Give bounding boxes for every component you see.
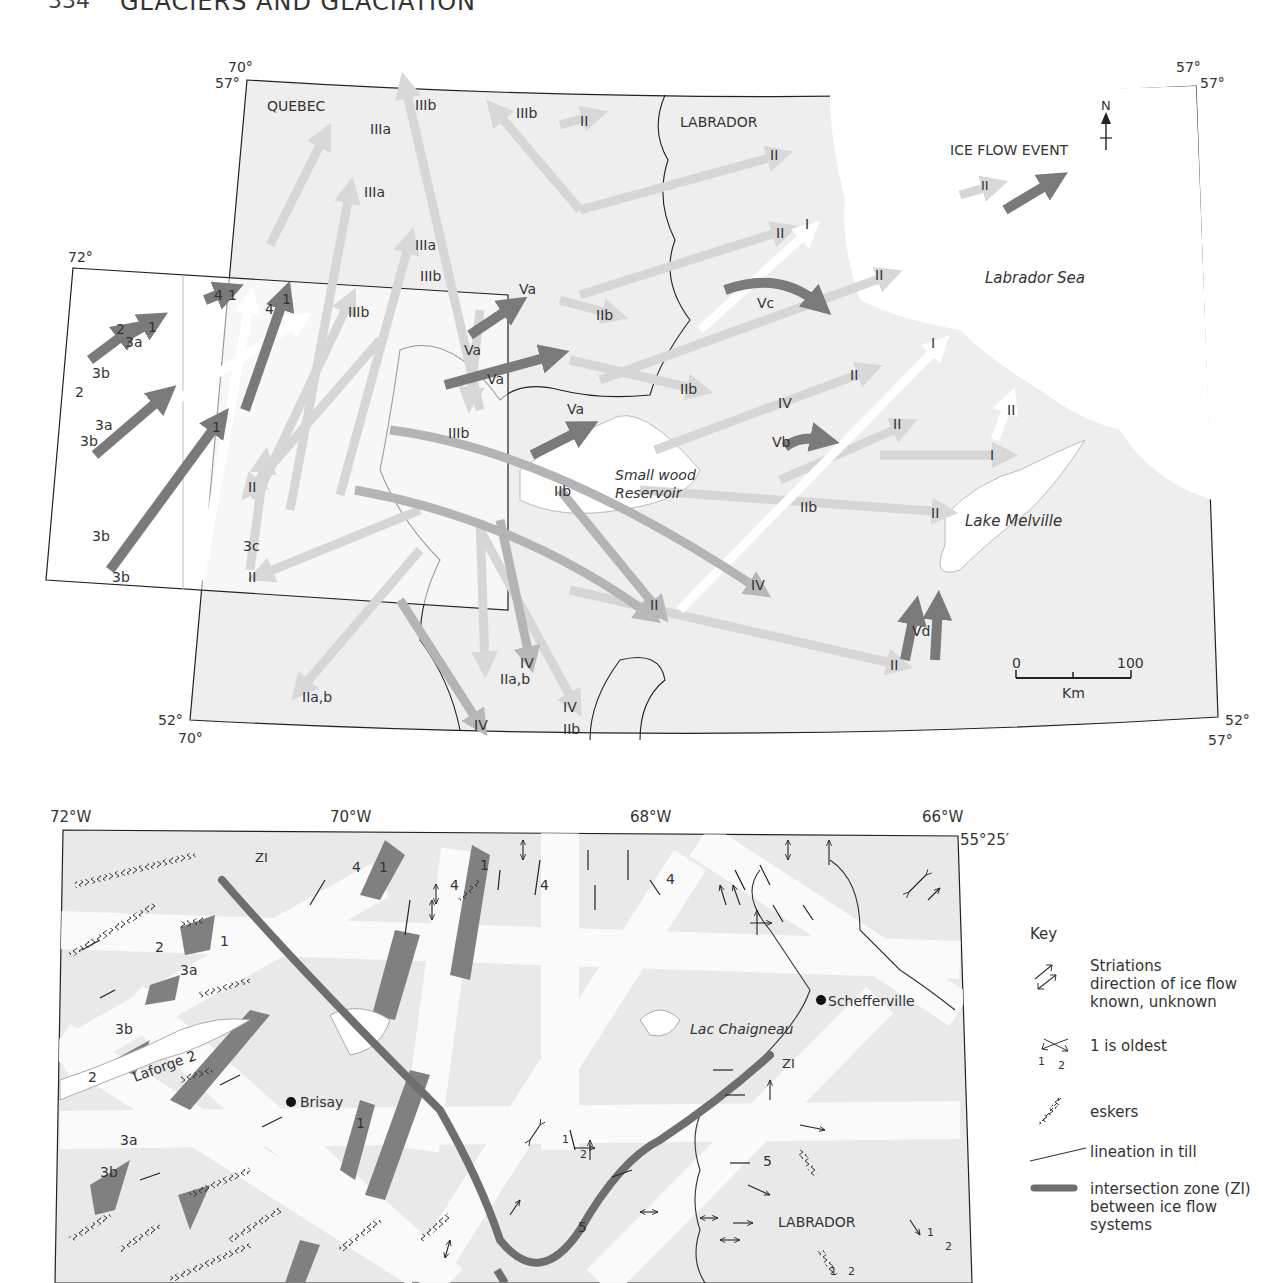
- lineation-icon: [1030, 1143, 1090, 1173]
- svg-text:Vd: Vd: [912, 623, 930, 639]
- legend-sample-label: II: [981, 178, 989, 193]
- svg-text:2: 2: [848, 1265, 855, 1278]
- svg-text:2: 2: [88, 1069, 97, 1085]
- svg-text:3b: 3b: [80, 433, 98, 449]
- svg-text:IV: IV: [520, 655, 534, 671]
- label-smallwood-2: Reservoir: [615, 485, 683, 501]
- svg-text:3b: 3b: [115, 1021, 133, 1037]
- coord-top-right-lat: 57°: [1200, 75, 1225, 91]
- svg-text:IIIb: IIIb: [348, 304, 369, 320]
- lon-tick-68: 68°W: [630, 808, 672, 826]
- svg-text:1: 1: [830, 1265, 837, 1278]
- svg-text:2: 2: [155, 939, 164, 955]
- svg-text:1: 1: [356, 1115, 365, 1131]
- svg-text:Va: Va: [567, 401, 584, 417]
- svg-text:Va: Va: [519, 281, 536, 297]
- svg-text:IV: IV: [563, 699, 577, 715]
- striation-arrows-icon: [1030, 957, 1070, 997]
- till-lineations: [82, 850, 813, 1180]
- striations: [432, 840, 940, 1258]
- lon-tick-66: 66°W: [922, 808, 964, 826]
- svg-text:I: I: [990, 447, 994, 463]
- svg-text:N: N: [1101, 98, 1111, 113]
- svg-text:II: II: [1007, 402, 1015, 418]
- svg-text:IIIa: IIIa: [370, 121, 391, 137]
- intersection-zone-line: [222, 880, 770, 1263]
- coord-bottom-right-lat: 52°: [1225, 712, 1250, 728]
- esker-icon: [1030, 1093, 1070, 1133]
- svg-text:Va: Va: [487, 371, 504, 387]
- schefferville-dot: [816, 995, 826, 1005]
- svg-text:5: 5: [578, 1219, 587, 1235]
- brisay-dot: [286, 1097, 296, 1107]
- svg-text:IIa,b: IIa,b: [500, 671, 530, 687]
- flow-bands-white: [60, 830, 960, 1283]
- svg-text:II: II: [770, 147, 778, 163]
- svg-text:0: 0: [1012, 655, 1021, 671]
- svg-text:II: II: [650, 597, 658, 613]
- svg-text:1: 1: [1038, 1055, 1045, 1068]
- svg-text:IIIb: IIIb: [448, 425, 469, 441]
- svg-text:IIb: IIb: [554, 483, 571, 499]
- svg-text:II: II: [893, 416, 901, 432]
- svg-text:4: 4: [352, 859, 361, 875]
- label-lac-chaigneau: Lac Chaigneau: [690, 1021, 794, 1037]
- water-bodies: [60, 1009, 680, 1100]
- svg-text:Vb: Vb: [772, 434, 791, 450]
- label-zi-2: ZI: [782, 1056, 795, 1071]
- label-lake-melville: Lake Melville: [965, 512, 1062, 530]
- coord-inset-lon: 72°: [68, 249, 93, 265]
- svg-text:3a: 3a: [95, 417, 113, 433]
- svg-text:3b: 3b: [112, 569, 130, 585]
- svg-text:I: I: [931, 335, 935, 351]
- svg-text:2: 2: [1058, 1059, 1065, 1072]
- lon-tick-72: 72°W: [50, 808, 92, 826]
- svg-text:IIb: IIb: [680, 381, 697, 397]
- svg-text:4: 4: [214, 287, 223, 303]
- svg-text:1: 1: [212, 419, 221, 435]
- svg-text:IIIb: IIIb: [415, 97, 436, 113]
- svg-text:4: 4: [450, 877, 459, 893]
- svg-text:3a: 3a: [180, 962, 198, 978]
- svg-text:4: 4: [265, 301, 274, 317]
- svg-text:1: 1: [480, 857, 489, 873]
- lon-tick-70: 70°W: [330, 808, 372, 826]
- svg-text:II: II: [776, 225, 784, 241]
- svg-text:IIb: IIb: [563, 721, 580, 737]
- bottom-map-frame: [55, 830, 972, 1283]
- svg-text:II: II: [890, 657, 898, 673]
- crossing-striations-icon: 1 2: [1030, 1037, 1080, 1077]
- svg-text:4: 4: [666, 871, 675, 887]
- svg-text:2: 2: [945, 1240, 952, 1253]
- svg-text:3a: 3a: [125, 334, 143, 350]
- svg-text:3b: 3b: [92, 365, 110, 381]
- svg-text:IIb: IIb: [596, 307, 613, 323]
- coord-bottom-left-lat: 52°: [158, 712, 183, 728]
- svg-text:IIa,b: IIa,b: [302, 689, 332, 705]
- label-schefferville: Schefferville: [828, 993, 915, 1009]
- svg-text:Va: Va: [464, 342, 481, 358]
- legend-title: ICE FLOW EVENT: [950, 142, 1069, 158]
- svg-text:1: 1: [148, 319, 157, 335]
- svg-text:2: 2: [580, 1148, 587, 1161]
- svg-text:IV: IV: [778, 395, 792, 411]
- border-lines: [695, 860, 955, 1283]
- svg-text:3b: 3b: [92, 528, 110, 544]
- svg-text:II: II: [248, 479, 256, 495]
- svg-text:5: 5: [763, 1153, 772, 1169]
- label-brisay: Brisay: [300, 1094, 343, 1110]
- svg-text:3b: 3b: [100, 1164, 118, 1180]
- svg-text:1: 1: [927, 1226, 934, 1239]
- svg-text:4: 4: [540, 877, 549, 893]
- svg-text:IIb: IIb: [800, 499, 817, 515]
- coord-top-left-lon: 70°: [228, 59, 253, 75]
- top-map: 70° 57° 57° 57° 52° 70° 52° 57° 72° QUEB…: [0, 0, 1261, 780]
- svg-text:IIIa: IIIa: [364, 184, 385, 200]
- eskers: [70, 855, 835, 1280]
- intersection-zone-icon: [1030, 1180, 1090, 1200]
- coord-top-right-lon: 57°: [1176, 59, 1201, 75]
- svg-text:II: II: [580, 113, 588, 129]
- svg-text:1: 1: [220, 933, 229, 949]
- svg-text:IV: IV: [751, 577, 765, 593]
- bottom-flow-numbers: 4 1 4 1 4 4 2 1 3a 3b 2 1 3a 3b 5 5 1 2 …: [88, 857, 952, 1278]
